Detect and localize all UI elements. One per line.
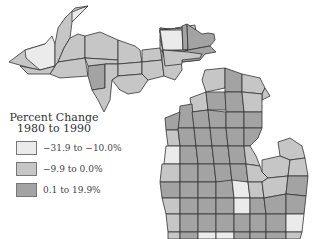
- legend-item-mid: −9.9 to 0.0%: [8, 161, 128, 176]
- legend-label-mid: −9.9 to 0.0%: [43, 164, 102, 174]
- lower-peninsula: [160, 68, 308, 239]
- legend-swatch-low: [16, 141, 37, 155]
- legend-title: Percent Change 1980 to 1990: [6, 112, 102, 134]
- legend-item-high: 0.1 to 19.9%: [8, 182, 128, 197]
- choropleth-map-figure: Percent Change 1980 to 1990 −31.9 to −10…: [0, 0, 317, 239]
- legend-label-low: −31.9 to −10.0%: [43, 143, 121, 153]
- legend-item-low: −31.9 to −10.0%: [8, 140, 128, 155]
- legend-swatch-high: [16, 183, 37, 197]
- legend-swatch-mid: [16, 162, 37, 176]
- map-legend: Percent Change 1980 to 1990 −31.9 to −10…: [8, 112, 128, 197]
- upper-peninsula: [9, 6, 216, 112]
- legend-label-high: 0.1 to 19.9%: [43, 185, 101, 195]
- legend-title-line2: 1980 to 1990: [6, 123, 102, 134]
